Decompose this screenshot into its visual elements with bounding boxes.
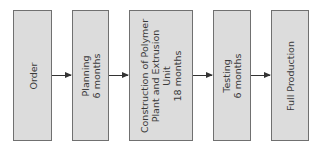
step-testing: Testing 6 months [213,10,251,141]
arrow-3 [193,75,212,76]
step-construction: Construction of Polymer Plant and Extrus… [129,10,193,141]
arrow-4 [251,75,270,76]
step-label: Full Production [285,41,296,111]
arrow-1 [52,75,71,76]
step-label: Order [27,62,38,89]
arrow-2 [109,75,128,76]
step-planning: Planning 6 months [72,10,109,141]
step-label: Construction of Polymer Plant and Extrus… [139,18,183,132]
step-label: Planning 6 months [80,53,102,98]
step-full-production: Full Production [271,10,309,141]
step-label: Testing 6 months [221,53,243,98]
step-order: Order [13,10,52,141]
